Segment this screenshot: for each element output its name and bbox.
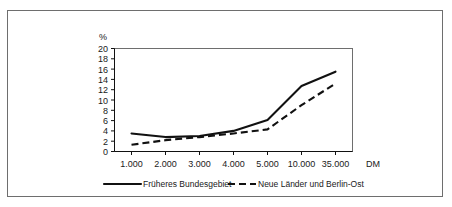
- legend-label-neue-laender-berlin-ost: Neue Länder und Berlin-Ost: [258, 179, 364, 189]
- y-tick-label: 10: [98, 96, 108, 106]
- x-axis-ticks: [132, 152, 336, 156]
- x-axis-tick-labels: 1.000 2.000 3.000 4.000 5.000 10.000 35.…: [120, 159, 349, 169]
- y-tick-label: 4: [103, 126, 108, 136]
- x-tick-label: 10.000: [288, 159, 316, 169]
- series-line-frueheres-bundesgebiet: [132, 72, 336, 137]
- x-tick-label: 5.000: [256, 159, 279, 169]
- y-tick-label: 6: [103, 116, 108, 126]
- y-axis-unit-label: %: [99, 32, 107, 42]
- x-axis-unit-label: DM: [366, 159, 380, 169]
- y-axis-ticks: [111, 49, 115, 152]
- chart-legend: Früheres Bundesgebiet Neue Länder und Be…: [104, 179, 364, 189]
- x-tick-label: 1.000: [120, 159, 143, 169]
- y-tick-label: 2: [103, 137, 108, 147]
- y-tick-label: 20: [98, 44, 108, 54]
- x-tick-label: 3.000: [188, 159, 211, 169]
- y-axis-tick-labels: 20 18 16 14 12 10 8 6 4 2 0: [98, 44, 108, 157]
- y-tick-label: 0: [103, 147, 108, 157]
- chart-figure: % 20 18 16 14 12 10 8 6 4 2 0 1.000 2.00…: [0, 0, 452, 207]
- legend-label-frueheres-bundesgebiet: Früheres Bundesgebiet: [143, 179, 232, 189]
- y-tick-label: 12: [98, 85, 108, 95]
- x-tick-label: 2.000: [154, 159, 177, 169]
- series-line-neue-laender-berlin-ost: [132, 84, 336, 145]
- x-tick-label: 35.000: [322, 159, 350, 169]
- y-tick-label: 18: [98, 54, 108, 64]
- y-tick-label: 14: [98, 75, 108, 85]
- x-tick-label: 4.000: [222, 159, 245, 169]
- line-chart: % 20 18 16 14 12 10 8 6 4 2 0 1.000 2.00…: [0, 0, 452, 207]
- y-tick-label: 8: [103, 106, 108, 116]
- y-tick-label: 16: [98, 65, 108, 75]
